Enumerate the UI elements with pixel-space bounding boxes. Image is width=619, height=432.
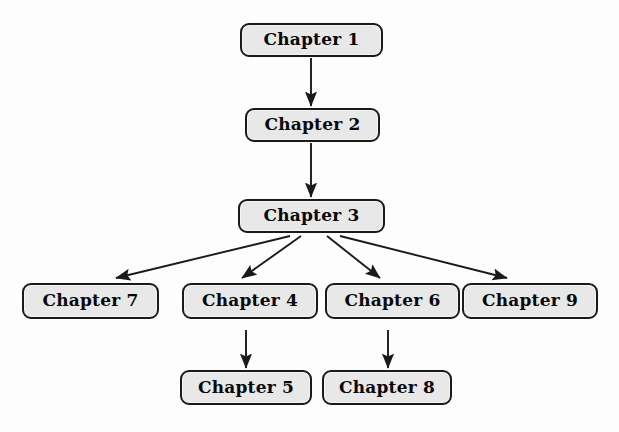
edge-ch3-to-ch9 — [340, 236, 507, 278]
node-ch5[interactable]: Chapter 5 — [180, 370, 312, 405]
node-ch8[interactable]: Chapter 8 — [322, 370, 452, 405]
node-ch7[interactable]: Chapter 7 — [22, 283, 159, 319]
node-label: Chapter 4 — [202, 290, 298, 310]
diagram-canvas: Chapter 1Chapter 2Chapter 3Chapter 7Chap… — [0, 0, 619, 432]
edge-ch3-to-ch7 — [116, 236, 290, 278]
node-label: Chapter 7 — [43, 290, 139, 310]
edge-ch3-to-ch6 — [327, 236, 380, 278]
node-ch2[interactable]: Chapter 2 — [245, 108, 380, 142]
node-ch6[interactable]: Chapter 6 — [325, 283, 460, 319]
node-label: Chapter 3 — [264, 205, 360, 225]
node-label: Chapter 9 — [482, 290, 578, 310]
node-label: Chapter 8 — [339, 377, 435, 397]
node-label: Chapter 1 — [264, 29, 360, 49]
node-ch3[interactable]: Chapter 3 — [238, 199, 385, 233]
edge-ch3-to-ch4 — [242, 236, 301, 278]
node-label: Chapter 5 — [198, 377, 294, 397]
node-ch4[interactable]: Chapter 4 — [182, 283, 318, 319]
node-label: Chapter 6 — [345, 290, 441, 310]
node-label: Chapter 2 — [265, 114, 361, 134]
node-ch9[interactable]: Chapter 9 — [462, 283, 598, 319]
node-ch1[interactable]: Chapter 1 — [240, 23, 383, 57]
